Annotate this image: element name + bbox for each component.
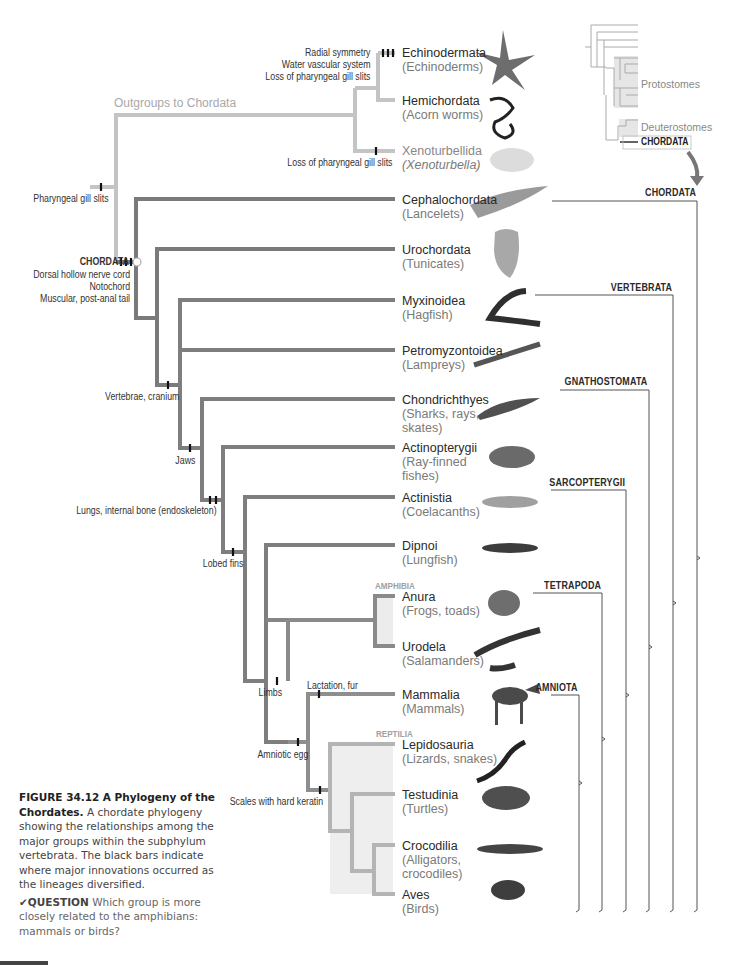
taxon-echinodermata: Echinodermata(Echinoderms) [402,46,486,74]
turtle-image [482,786,530,810]
curved-arrow-down-icon [688,152,697,178]
bracket-label-gnathostomata: GNATHOSTOMATA [564,375,647,387]
taxon-lepidosauria: Lepidosauria(Lizards, snakes) [402,738,497,766]
figure-caption-text: A chordate phylogeny showing the relatio… [19,806,214,891]
taxon-cephalochordata: Cephalochordata(Lancelets) [402,193,497,221]
coelacanth-image [482,496,538,508]
inset-deuterostome-shading [619,119,638,137]
outgroups-label: Outgroups to Chordata [114,96,236,110]
fish-image [489,446,535,468]
taxon-actinopterygii: Actinopterygii(Ray-finnedfishes) [402,441,477,483]
lungfish-image [482,543,538,553]
taxon-urodela: Urodela(Salamanders) [402,640,484,668]
bird-image [491,880,525,900]
taxon-dipnoi: Dipnoi(Lungfish) [402,539,458,567]
bracket-label-vertebrata: VERTEBRATA [611,281,672,293]
trait-gill-slits: Pharyngeal gill slits [34,193,109,205]
trait-scales: Scales with hard keratin [230,796,323,808]
bracket-label-sarcopterygii: SARCOPTERYGII [549,476,625,488]
deer-image [492,684,540,725]
trait-jaws: Jaws [175,455,195,467]
hagfish-image [490,291,540,324]
figure-number: FIGURE 34.12 [19,791,99,803]
inset-deuterostomes-label: Deuterostomes [641,121,712,133]
inset-chordata-label: CHORDATA [641,136,688,147]
taxon-urochordata: Urochordata(Tunicates) [402,243,471,271]
tunicate-image [494,229,519,278]
trait-vertebrae: Vertebrae, cranium [105,391,179,403]
trait-lobed-fins: Lobed fins [203,558,244,570]
taxon-petromyzontoidea: Petromyzontoidea(Lampreys) [402,344,503,372]
taxon-testudinia: Testudinia(Turtles) [402,788,458,816]
trait-lactation: Lactation, fur [307,680,358,692]
acorn-worm-image [490,98,513,138]
bracket-label-amniota: AMNIOTA [536,681,578,693]
figure-question: ✔QUESTION Which group is more closely re… [19,895,229,939]
checkmark-icon: ✔ [19,896,28,908]
trait-lungs: Lungs, internal bone (endoskeleton) [77,505,217,517]
chordata-node-icon [133,258,141,266]
inset-protostomes-label: Protostomes [641,78,700,90]
trait-echinoderm: Radial symmetryWater vascular systemLoss… [266,47,371,83]
taxon-hemichordata: Hemichordata(Acorn worms) [402,94,483,122]
figure-caption: FIGURE 34.12 A Phylogeny of the Chordate… [19,790,229,938]
taxon-myxinoidea: Myxinoidea(Hagfish) [402,294,465,322]
clade-brackets [533,201,697,912]
taxon-anura: Anura(Frogs, toads) [402,590,480,618]
trait-limbs: Limbs [259,687,282,699]
trait-chordata-title: CHORDATA [80,256,129,268]
bracket-label-tetrapoda: TETRAPODA [544,579,601,591]
taxon-mammalia: Mammalia(Mammals) [402,688,465,716]
taxon-aves: Aves(Birds) [402,888,439,916]
frog-image [488,590,520,616]
taxon-chondrichthyes: Chondrichthyes(Sharks, rays,skates) [402,393,489,435]
trait-amniotic-egg: Amniotic egg [257,749,308,761]
taxon-crocodilia: Crocodilia(Alligators,crocodiles) [402,839,462,881]
bracket-label-chordata: CHORDATA [645,186,696,198]
reptilia-label: REPTILIA [376,728,413,739]
taxon-actinistia: Actinistia(Coelacanths) [402,491,480,519]
xenoturbella-image [490,148,534,172]
question-label: QUESTION [28,896,89,908]
alligator-image [477,844,543,854]
salamander-image [475,630,540,669]
chordata-branches [116,199,395,385]
trait-chordata: Dorsal hollow nerve cordNotochordMuscula… [33,269,130,305]
amphibia-label: AMPHIBIA [375,580,415,591]
trait-xeno: Loss of pharyngeal gill slits [288,157,393,169]
arrow-head-icon [690,176,704,186]
page-tab [0,961,48,965]
taxon-xenoturbellida: Xenoturbellida(Xenoturbella) [402,144,482,172]
amphibia-shading [375,596,393,646]
